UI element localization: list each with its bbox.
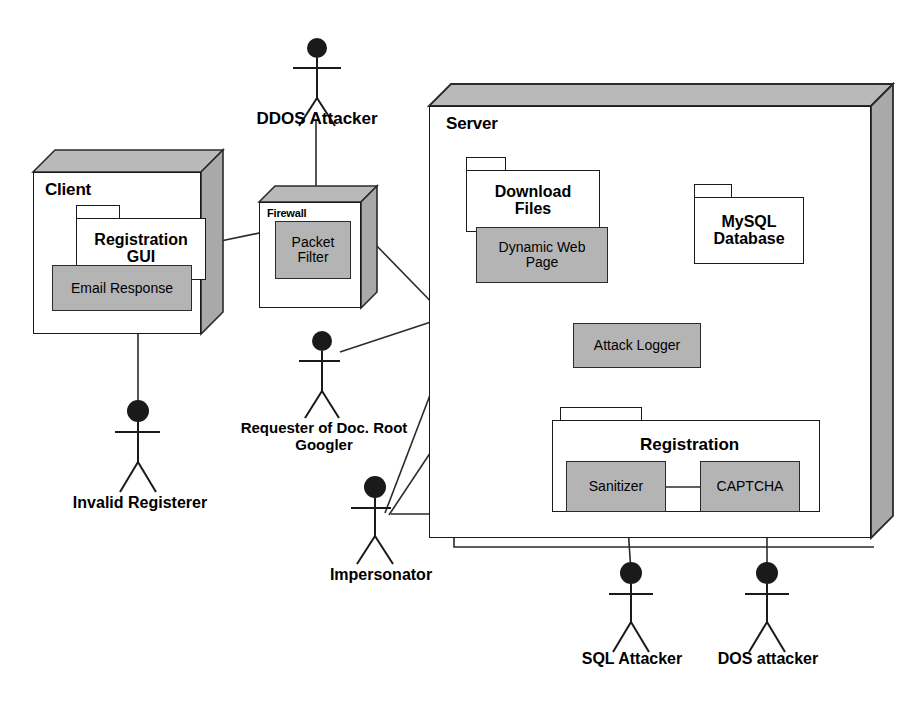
actor-sql-attacker[interactable]: SQL Attacker [595, 560, 669, 656]
component-dynamic-web-page[interactable]: Dynamic Web Page [476, 227, 608, 283]
package-mysql-database-tab [694, 184, 732, 198]
node-server-title: Server [446, 114, 498, 134]
actor-sql-attacker-figure [595, 560, 669, 656]
actor-requester-googler-figure [286, 328, 362, 424]
component-packet-filter[interactable]: Packet Filter [275, 221, 351, 279]
package-mysql-database-body: MySQL Database [694, 197, 804, 264]
actor-impersonator[interactable]: Impersonator [343, 474, 417, 568]
component-email-response[interactable]: Email Response [52, 265, 192, 311]
package-download-files-body: Download Files [466, 170, 600, 232]
actor-invalid-registerer-figure [102, 398, 176, 496]
actor-dos-attacker-figure [731, 560, 805, 656]
component-attack-logger[interactable]: Attack Logger [573, 323, 701, 368]
package-registration-gui-tab [76, 205, 120, 219]
actor-impersonator-figure [343, 474, 417, 568]
actor-invalid-registerer[interactable]: Invalid Registerer [102, 398, 176, 496]
actor-requester-googler[interactable]: Requester of Doc. Root Googler [286, 328, 362, 424]
node-client-title: Client [45, 180, 91, 200]
actor-impersonator-label: Impersonator [311, 566, 451, 584]
component-sanitizer[interactable]: Sanitizer [566, 461, 666, 512]
uml-deployment-diagram: Client Registration GUI Email Response F… [0, 0, 917, 719]
component-captcha[interactable]: CAPTCHA [700, 461, 800, 512]
actor-ddos-attacker[interactable]: DDOS Attacker [281, 36, 353, 128]
actor-sql-attacker-label: SQL Attacker [556, 650, 708, 668]
actor-requester-googler-label: Requester of Doc. Root Googler [224, 420, 424, 454]
package-registration-label: Registration [640, 435, 739, 455]
actor-invalid-registerer-label: Invalid Registerer [50, 494, 230, 512]
node-firewall-title: Firewall [267, 207, 306, 219]
actor-dos-attacker-label: DOS attacker [692, 650, 844, 668]
package-download-files-tab [466, 157, 506, 171]
package-registration-tab [560, 407, 642, 421]
actor-dos-attacker[interactable]: DOS attacker [731, 560, 805, 656]
actor-ddos-attacker-label: DDOS Attacker [243, 109, 391, 128]
